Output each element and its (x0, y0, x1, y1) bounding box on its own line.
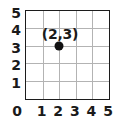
y-tick-label-3: 3 (11, 41, 21, 55)
data-point-label: (2,3) (42, 27, 79, 41)
x-tick-label-5: 5 (103, 104, 113, 118)
y-tick-label-5: 5 (11, 6, 21, 20)
gridline-horizontal-y3 (26, 46, 109, 47)
x-tick-label-0: 0 (12, 104, 22, 118)
coordinate-plane-figure: (2,3) 5 4 3 2 1 0 1 2 3 4 5 (0, 0, 122, 125)
y-tick-label-2: 2 (11, 58, 21, 72)
y-tick-label-4: 4 (11, 23, 21, 37)
data-point-marker (55, 41, 64, 50)
gridline-horizontal-y2 (26, 63, 109, 64)
gridline-vertical-x1 (43, 11, 44, 99)
gridline-vertical-x2 (59, 11, 60, 99)
y-tick-label-1: 1 (11, 76, 21, 90)
gridline-vertical-x3 (76, 11, 77, 99)
plot-area: (2,3) (25, 10, 110, 100)
x-axis-labels: 0 1 2 3 4 5 (0, 104, 122, 125)
x-tick-label-3: 3 (70, 104, 80, 118)
gridline-vertical-x4 (92, 11, 93, 99)
gridline-horizontal-y1 (26, 81, 109, 82)
x-tick-label-2: 2 (53, 104, 63, 118)
x-tick-label-4: 4 (87, 104, 97, 118)
x-tick-label-1: 1 (37, 104, 47, 118)
